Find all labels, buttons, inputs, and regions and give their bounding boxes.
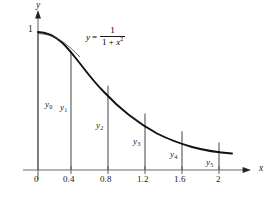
x-tick-label-1.2: 1.2 (137, 175, 149, 184)
ordinate-label-y5-sub: 5 (210, 161, 213, 168)
x-tick-label-0.8: 0.8 (100, 175, 112, 184)
ordinate-label-y1-sub: 1 (64, 106, 67, 113)
x-tick-label-0: 0 (34, 175, 39, 184)
equation-fraction: 1 1 + x2 (100, 26, 125, 47)
x-tick-label-0.4: 0.4 (63, 175, 75, 184)
ordinate-label-y4: y4 (170, 150, 177, 159)
ordinate-label-y1: y1 (60, 103, 67, 112)
equation-annotation: y = 1 1 + x2 (86, 26, 125, 47)
equation-numerator: 1 (106, 26, 119, 36)
figure-container: y x 1 0 0.4 0.8 1.2 1.6 2 y0 y1 y2 y3 y4… (0, 0, 277, 197)
ordinate-label-y5: y5 (206, 158, 213, 167)
plot-svg (0, 0, 277, 197)
equation-denominator: 1 + x2 (100, 37, 125, 47)
ordinate-label-y2-sub: 2 (100, 124, 103, 131)
equation-equals-sign: = (92, 32, 97, 42)
ordinate-lines (38, 32, 219, 170)
y-axis-label: y (36, 1, 40, 11)
y-tick-label-1: 1 (28, 25, 33, 35)
function-curve-highlight (38, 34, 80, 57)
equation-denominator-exponent: 2 (120, 36, 123, 42)
x-tick-label-1.6: 1.6 (174, 175, 186, 184)
ordinate-label-y4-sub: 4 (174, 153, 177, 160)
x-tick-label-2: 2 (216, 175, 221, 184)
x-axis-label: x (259, 164, 263, 174)
ordinate-label-y3-sub: 3 (137, 140, 140, 147)
ordinate-label-y0-sub: 0 (49, 103, 52, 110)
equation-lhs: y (86, 32, 90, 42)
ordinate-label-y3: y3 (133, 137, 140, 146)
ordinate-label-y2: y2 (96, 121, 103, 130)
ordinate-label-y0: y0 (45, 100, 52, 109)
equation-denominator-lead: 1 + (102, 37, 116, 47)
x-axis (23, 167, 251, 173)
